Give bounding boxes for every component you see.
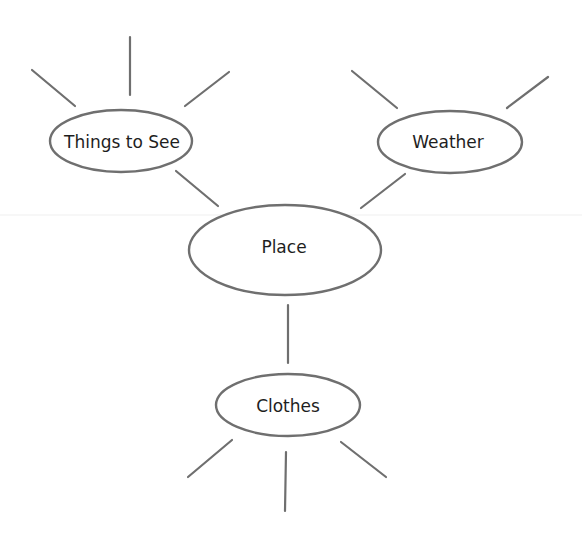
node-place[interactable]: Place bbox=[189, 205, 381, 295]
node-clothes[interactable]: Clothes bbox=[216, 374, 360, 436]
spoke-things-left bbox=[32, 70, 75, 106]
spoke-things-right bbox=[185, 72, 229, 106]
label-things-to-see: Things to See bbox=[63, 132, 180, 152]
clothes-spokes bbox=[188, 440, 386, 511]
spoke-clothes-left bbox=[188, 440, 232, 477]
label-clothes: Clothes bbox=[256, 396, 320, 416]
weather-spokes bbox=[352, 71, 548, 108]
node-things-to-see[interactable]: Things to See bbox=[50, 110, 192, 172]
node-weather[interactable]: Weather bbox=[378, 111, 522, 173]
spoke-weather-right bbox=[507, 77, 548, 108]
spoke-clothes-down bbox=[285, 452, 286, 511]
connector-place-weather bbox=[361, 174, 405, 208]
things-to-see-spokes bbox=[32, 37, 229, 106]
spoke-weather-left bbox=[352, 71, 397, 108]
mind-map-diagram: Things to See Weather Place Clothes bbox=[0, 0, 582, 541]
spoke-clothes-right bbox=[341, 442, 386, 477]
connector-place-things bbox=[176, 171, 218, 206]
label-place: Place bbox=[261, 237, 306, 257]
label-weather: Weather bbox=[412, 132, 484, 152]
